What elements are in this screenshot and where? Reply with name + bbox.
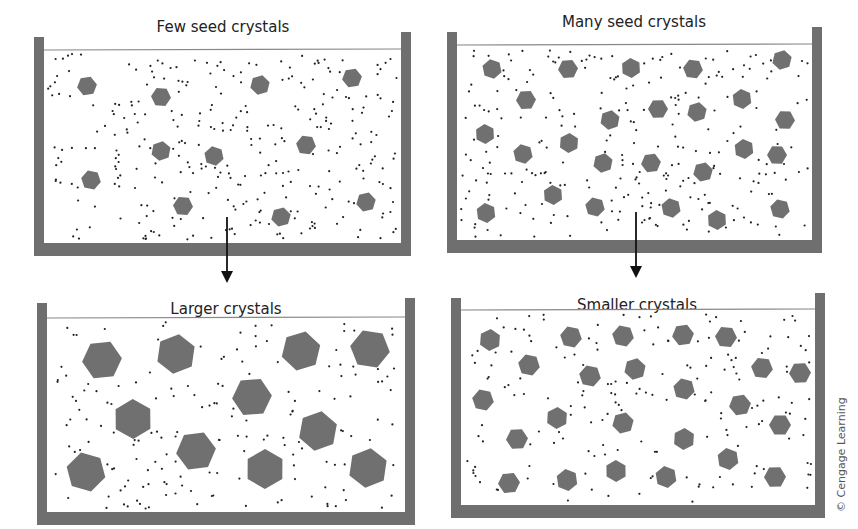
beaker-left-wall xyxy=(37,303,47,525)
crystal-hexagon xyxy=(770,199,789,218)
solute-dots xyxy=(460,50,809,238)
crystal-hexagon xyxy=(772,50,791,69)
crystals xyxy=(476,50,795,230)
crystal-hexagon xyxy=(648,100,668,117)
solution-surface-line xyxy=(461,309,815,310)
beakers-layer: Few seed crystalsMany seed crystalsLarge… xyxy=(34,13,825,525)
crystals xyxy=(77,69,376,227)
crystal-hexagon xyxy=(356,192,375,211)
crystal-hexagon xyxy=(157,334,194,374)
crystal-hexagon xyxy=(579,366,601,387)
crystal-hexagon xyxy=(67,453,106,492)
crystal-hexagon xyxy=(480,329,500,351)
beaker-smaller: Smaller crystals xyxy=(451,293,825,518)
beaker-walls xyxy=(34,32,411,256)
crystal-hexagon xyxy=(151,88,171,106)
crystal-hexagon xyxy=(516,91,536,109)
solution-surface-line xyxy=(44,49,401,50)
crystal-hexagon xyxy=(205,146,224,166)
crystal-hexagon xyxy=(176,433,216,470)
crystal-hexagon xyxy=(77,77,97,96)
beaker-many-seed: Many seed crystals xyxy=(447,13,822,253)
crystal-hexagon xyxy=(544,185,562,205)
crystal-hexagon xyxy=(282,332,320,371)
crystal-hexagon xyxy=(477,203,495,223)
crystal-hexagon xyxy=(350,330,390,367)
crystals xyxy=(67,330,390,491)
beaker-walls xyxy=(37,298,415,525)
crystal-hexagon xyxy=(606,460,625,482)
crystal-hexagon xyxy=(513,144,532,163)
crystal-hexagon xyxy=(82,342,122,378)
crystal-hexagon xyxy=(506,429,528,449)
crystal-hexagon xyxy=(673,378,694,399)
crystal-hexagon xyxy=(250,75,269,94)
crystal-hexagon xyxy=(656,466,677,488)
crystal-hexagon xyxy=(547,407,567,429)
crystal-hexagon xyxy=(271,207,290,226)
crystal-hexagon xyxy=(718,448,739,470)
crystal-hexagon xyxy=(232,379,272,415)
crystal-hexagon xyxy=(751,358,773,378)
beaker-right-wall xyxy=(815,293,825,518)
beaker-left-wall xyxy=(34,37,44,256)
crystal-hexagon xyxy=(152,141,171,161)
crystal-hexagon xyxy=(683,60,703,78)
crystal-hexagon xyxy=(775,111,795,129)
beaker-right-wall xyxy=(405,298,415,525)
beaker-title: Few seed crystals xyxy=(157,18,290,36)
beaker-title: Larger crystals xyxy=(170,300,281,318)
crystal-hexagon xyxy=(733,89,751,109)
crystal-hexagon xyxy=(342,69,362,88)
crystal-hexagon xyxy=(349,448,386,488)
crystal-hexagon xyxy=(296,136,316,155)
crystal-hexagon xyxy=(594,153,613,173)
crystal-hexagon xyxy=(687,102,706,121)
crystal-hexagon xyxy=(173,197,193,215)
beaker-bottom xyxy=(451,505,825,518)
beaker-right-wall xyxy=(812,27,822,253)
crystal-hexagon xyxy=(557,469,577,491)
solution-surface-line xyxy=(457,44,812,45)
crystal-hexagon xyxy=(767,146,787,163)
crystal-hexagon xyxy=(708,210,726,230)
copyright-credit: © Cengage Learning xyxy=(835,397,848,512)
crystal-hexagon xyxy=(472,390,494,411)
crystal-hexagon xyxy=(729,395,751,416)
crystal-hexagon xyxy=(483,59,502,79)
crystal-hexagon xyxy=(518,355,540,376)
crystal-hexagon xyxy=(672,325,694,345)
solute-dots xyxy=(466,314,812,503)
crystal-growth-diagram: Few seed crystalsMany seed crystalsLarge… xyxy=(0,0,858,529)
crystal-hexagon xyxy=(641,154,661,172)
crystal-hexagon xyxy=(735,139,753,159)
crystal-hexagon xyxy=(558,60,578,78)
crystals xyxy=(472,325,811,493)
crystal-hexagon xyxy=(248,449,283,489)
beaker-left-wall xyxy=(451,298,461,518)
crystal-hexagon xyxy=(622,58,640,78)
beaker-bottom xyxy=(37,512,415,525)
crystal-hexagon xyxy=(769,415,791,434)
crystal-hexagon xyxy=(116,399,151,439)
crystal-hexagon xyxy=(560,133,578,153)
crystal-hexagon xyxy=(674,428,694,450)
crystal-hexagon xyxy=(81,171,101,190)
crystal-hexagon xyxy=(715,327,737,347)
arrow-down-icon xyxy=(630,266,642,278)
crystal-hexagon xyxy=(789,363,811,383)
beaker-title: Many seed crystals xyxy=(562,13,706,31)
crystal-hexagon xyxy=(662,198,681,218)
crystal-hexagon xyxy=(560,327,582,348)
beaker-larger: Larger crystals xyxy=(37,298,415,525)
beaker-bottom xyxy=(447,240,822,253)
crystal-hexagon xyxy=(612,326,634,347)
crystal-hexagon xyxy=(476,124,494,144)
beaker-few-seed: Few seed crystals xyxy=(34,18,411,256)
arrow-down-icon xyxy=(221,271,233,283)
crystal-hexagon xyxy=(625,358,646,379)
beaker-left-wall xyxy=(447,32,457,253)
beaker-right-wall xyxy=(401,32,411,256)
beaker-bottom xyxy=(34,243,411,256)
crystal-hexagon xyxy=(693,162,712,181)
